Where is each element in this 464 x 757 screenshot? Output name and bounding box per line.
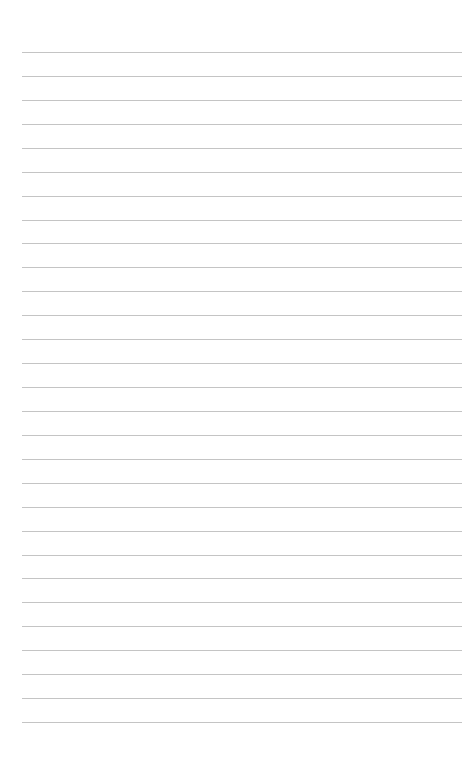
ruled-line	[22, 52, 462, 53]
ruled-line	[22, 435, 462, 436]
ruled-line	[22, 243, 462, 244]
ruled-line	[22, 531, 462, 532]
ruled-line	[22, 626, 462, 627]
ruled-line	[22, 267, 462, 268]
ruled-line	[22, 411, 462, 412]
ruled-line	[22, 76, 462, 77]
ruled-line	[22, 483, 462, 484]
ruled-line	[22, 387, 462, 388]
ruled-line	[22, 722, 462, 723]
ruled-line	[22, 315, 462, 316]
ruled-line	[22, 291, 462, 292]
ruled-line	[22, 555, 462, 556]
ruled-line	[22, 172, 462, 173]
ruled-line	[22, 650, 462, 651]
ruled-line	[22, 602, 462, 603]
ruled-line	[22, 148, 462, 149]
ruled-line	[22, 363, 462, 364]
ruled-line	[22, 196, 462, 197]
ruled-line	[22, 124, 462, 125]
lined-paper-page	[0, 0, 464, 757]
ruled-line	[22, 100, 462, 101]
ruled-line	[22, 339, 462, 340]
ruled-line	[22, 220, 462, 221]
ruled-line	[22, 698, 462, 699]
ruled-line	[22, 578, 462, 579]
ruled-line	[22, 674, 462, 675]
ruled-line	[22, 507, 462, 508]
ruled-line	[22, 459, 462, 460]
